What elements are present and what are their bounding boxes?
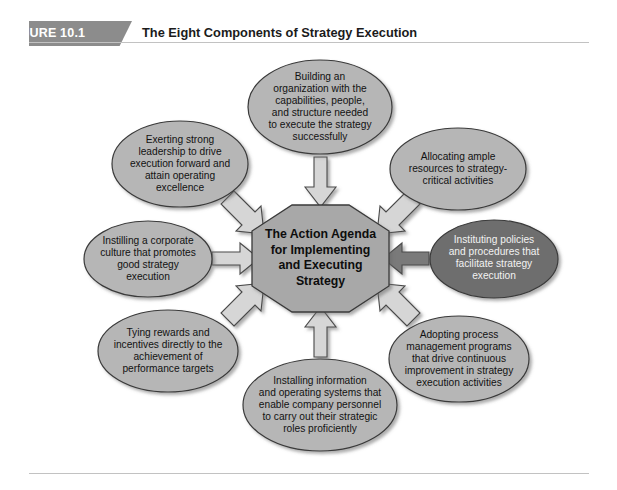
component-node-bottom[interactable] bbox=[243, 359, 397, 451]
strategy-execution-diagram: Building an organization with the capabi… bbox=[0, 47, 617, 457]
component-node-left[interactable] bbox=[84, 221, 212, 297]
footer-divider bbox=[29, 473, 589, 474]
component-node-top[interactable] bbox=[248, 60, 392, 154]
figure-number-label: FIGURE 10.1 bbox=[8, 26, 85, 40]
component-node-bottom-left[interactable] bbox=[98, 310, 238, 392]
component-node-top-right[interactable] bbox=[390, 128, 526, 210]
component-node-bottom-right[interactable] bbox=[389, 316, 529, 402]
component-node-right[interactable] bbox=[430, 220, 558, 298]
arrow-top bbox=[305, 157, 336, 207]
diagram-canvas bbox=[0, 47, 617, 457]
center-octagon[interactable] bbox=[252, 205, 389, 312]
figure-header: FIGURE 10.1 The Eight Components of Stra… bbox=[0, 21, 617, 47]
component-node-top-left[interactable] bbox=[112, 121, 248, 207]
arrow-bottom bbox=[305, 307, 336, 357]
figure-title: The Eight Components of Strategy Executi… bbox=[142, 25, 417, 40]
arrow-right bbox=[383, 243, 429, 274]
header-divider bbox=[29, 42, 589, 43]
